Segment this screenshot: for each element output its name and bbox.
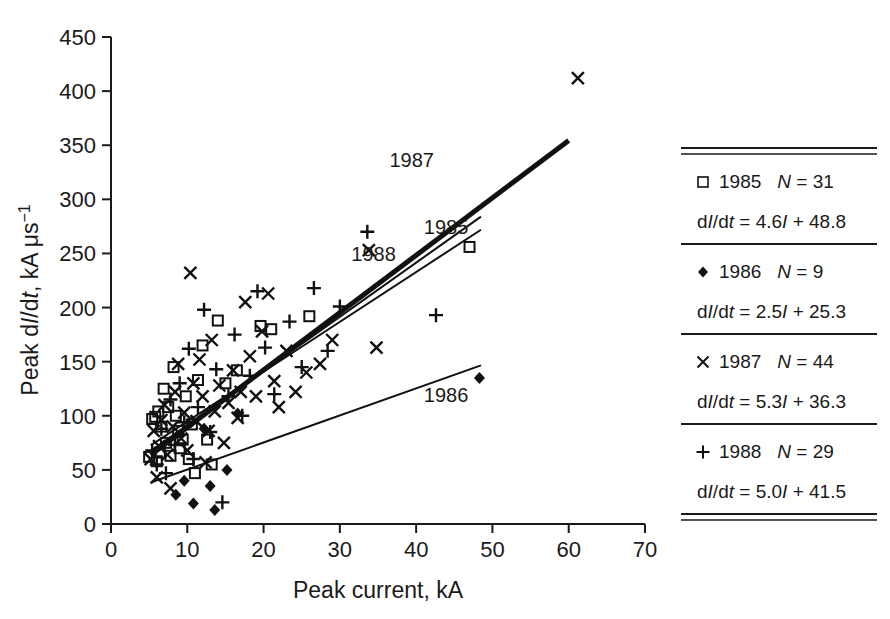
data-point-1988 (250, 284, 264, 298)
x-tick-label: 60 (556, 537, 580, 562)
legend-row-year-and-count: 1988N = 29 (719, 441, 834, 462)
y-tick-label: 150 (59, 350, 96, 375)
x-axis-title-text: Peak current, kA (293, 577, 464, 603)
y-axis-tick-labels: 050100150200250300350400450 (59, 25, 96, 537)
figure-container: 050100150200250300350400450 010203040506… (0, 0, 890, 619)
legend-row-1988: 1988N = 29dI/dt = 5.0I + 41.5 (697, 441, 847, 502)
y-tick-label: 100 (59, 404, 96, 429)
data-point-1988 (228, 328, 242, 342)
y-tick-label: 0 (84, 512, 96, 537)
scatter-chart: 050100150200250300350400450 010203040506… (0, 0, 890, 619)
data-point-1988 (258, 341, 272, 355)
legend-eq-intercept: + 48.8 (787, 211, 846, 232)
legend-n-value: 31 (813, 171, 834, 192)
legend-row-equation: dI/dt = 2.5I + 25.3 (697, 301, 846, 322)
data-point-1987 (218, 437, 230, 449)
data-point-1987 (165, 482, 177, 494)
legend-year: 1987 (719, 351, 761, 372)
data-point-1988 (267, 387, 281, 401)
data-point-1987 (273, 401, 285, 413)
legend-eq-over-d: /d (713, 211, 729, 232)
legend-n-equals: = (791, 441, 813, 462)
inline-label-1985: 1985 (424, 216, 469, 238)
legend-n-symbol: N (777, 351, 791, 372)
data-point-1987 (250, 390, 262, 402)
x-tick-label: 40 (404, 537, 428, 562)
legend-eq-intercept: + 36.3 (787, 391, 846, 412)
data-point-1987 (262, 287, 274, 299)
legend-n-value: 9 (813, 261, 824, 282)
legend-eq-intercept: + 41.5 (787, 481, 846, 502)
data-point-1988 (360, 225, 374, 239)
data-point-1987 (572, 72, 584, 84)
legend-n-equals: = (791, 171, 813, 192)
inline-label-1988: 1988 (351, 243, 396, 265)
legend-marker-open-square-icon (698, 177, 708, 187)
y-tick-label: 400 (59, 79, 96, 104)
data-point-1987 (239, 296, 251, 308)
data-point-1986 (209, 504, 220, 516)
y-axis-ticks (102, 37, 111, 524)
data-point-1985 (304, 311, 314, 321)
data-point-1986 (221, 464, 232, 476)
legend-eq-slope: = 5.3 (734, 391, 782, 412)
svg-text:Peak dI/dt, kA μs−1: Peak dI/dt, kA μs−1 (16, 204, 43, 395)
legend-row-equation: dI/dt = 5.3I + 36.3 (697, 391, 846, 412)
x-tick-label: 70 (633, 537, 657, 562)
x-axis-ticks (111, 524, 645, 533)
legend-eq-intercept: + 25.3 (787, 301, 846, 322)
legend-n-symbol: N (777, 441, 791, 462)
y-tick-label: 450 (59, 25, 96, 50)
legend-table: 1985N = 31dI/dt = 4.6I + 48.81986N = 9dI… (681, 148, 877, 520)
x-axis-title: Peak current, kA (293, 577, 464, 603)
data-point-1988 (243, 369, 257, 383)
legend-n-equals: = (791, 261, 813, 282)
regression-line-1985 (151, 230, 481, 446)
legend-n-symbol: N (777, 171, 791, 192)
legend-row-1985: 1985N = 31dI/dt = 4.6I + 48.8 (697, 171, 846, 232)
data-point-1987 (158, 399, 170, 411)
y-axis-title-post: , kA μs (17, 223, 43, 293)
data-point-1987 (193, 354, 205, 366)
data-point-1986 (188, 497, 199, 509)
data-point-1985 (465, 242, 475, 252)
legend-row-year-and-count: 1987N = 44 (719, 351, 834, 372)
data-point-1988 (197, 303, 211, 317)
legend-row-year-and-count: 1985N = 31 (719, 171, 834, 192)
legend-eq-d: d (697, 391, 708, 412)
inline-label-1987: 1987 (389, 149, 434, 171)
y-tick-label: 200 (59, 296, 96, 321)
x-tick-label: 50 (480, 537, 504, 562)
legend-eq-over-d: /d (713, 301, 729, 322)
data-point-1987 (268, 375, 280, 387)
data-point-1987 (290, 386, 302, 398)
legend-year: 1985 (719, 171, 761, 192)
y-tick-label: 300 (59, 187, 96, 212)
data-point-1985 (213, 316, 223, 326)
data-point-1988 (321, 344, 335, 358)
legend-n-value: 29 (813, 441, 834, 462)
legend-eq-d: d (697, 211, 708, 232)
y-tick-label: 250 (59, 241, 96, 266)
data-point-1986 (474, 372, 485, 384)
legend-eq-slope: = 2.5 (734, 301, 782, 322)
data-point-1987 (370, 342, 382, 354)
legend-row-equation: dI/dt = 4.6I + 48.8 (697, 211, 846, 232)
legend-row-1987: 1987N = 44dI/dt = 5.3I + 36.3 (697, 351, 846, 412)
x-tick-label: 20 (251, 537, 275, 562)
y-axis-title-pre: Peak d (17, 324, 43, 396)
y-tick-label: 350 (59, 133, 96, 158)
x-axis-tick-labels: 010203040506070 (105, 537, 657, 562)
legend-row-year-and-count: 1986N = 9 (719, 261, 823, 282)
x-tick-label: 10 (175, 537, 199, 562)
data-point-1987 (314, 358, 326, 370)
axes-group: 050100150200250300350400450 010203040506… (59, 25, 657, 562)
x-tick-label: 30 (328, 537, 352, 562)
y-tick-label: 50 (72, 458, 96, 483)
data-point-1986 (179, 475, 190, 487)
legend-eq-d: d (697, 481, 708, 502)
data-point-1985 (159, 384, 169, 394)
data-point-1985 (190, 468, 200, 478)
y-axis-title: Peak dI/dt, kA μs−1 (16, 204, 43, 395)
y-axis-title-sup: −1 (16, 204, 33, 222)
